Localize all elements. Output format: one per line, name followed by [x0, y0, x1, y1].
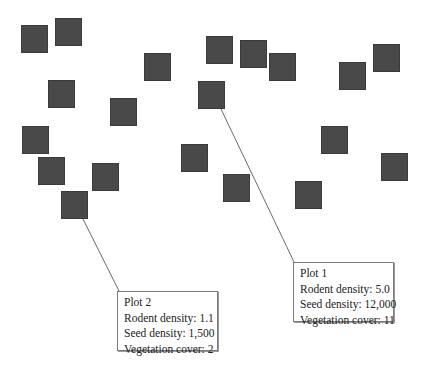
plot-2-callout: Plot 2 Rodent density: 1.1 Seed density:… — [117, 291, 218, 351]
plot-square — [22, 126, 49, 154]
plot-square — [181, 144, 208, 172]
plot-2-leader-line — [83, 219, 119, 291]
plot-square — [38, 157, 65, 185]
plot-square — [321, 126, 348, 154]
plot-1-title: Plot 1 — [300, 266, 387, 282]
plot-square — [240, 40, 267, 68]
plot-square — [295, 181, 322, 209]
plot-square — [61, 191, 88, 219]
plot-2-vegetation-cover: Vegetation cover: 2 — [124, 342, 211, 358]
plot-square — [144, 53, 171, 81]
plot-square — [92, 163, 119, 191]
plot-map-canvas: Plot 2 Rodent density: 1.1 Seed density:… — [0, 0, 427, 366]
plot-square — [206, 36, 233, 64]
plot-2-title: Plot 2 — [124, 295, 211, 311]
plot-square — [381, 153, 408, 181]
plot-square — [48, 80, 75, 108]
plot-1-seed-density: Seed density: 12,000 — [300, 297, 387, 313]
plot-1-rodent-density: Rodent density: 5.0 — [300, 282, 387, 298]
plot-1-vegetation-cover: Vegetation cover: 11 — [300, 313, 387, 329]
plot-2-seed-density: Seed density: 1,500 — [124, 326, 211, 342]
plot-square — [198, 81, 225, 109]
plot-1-callout: Plot 1 Rodent density: 5.0 Seed density:… — [293, 262, 394, 322]
plot-square — [110, 98, 137, 126]
plot-square — [223, 174, 250, 202]
plot-square — [55, 18, 82, 46]
plot-square — [339, 62, 366, 90]
plot-square — [373, 44, 400, 72]
plot-2-rodent-density: Rodent density: 1.1 — [124, 311, 211, 327]
plot-square — [21, 25, 48, 53]
plot-square — [269, 53, 296, 81]
